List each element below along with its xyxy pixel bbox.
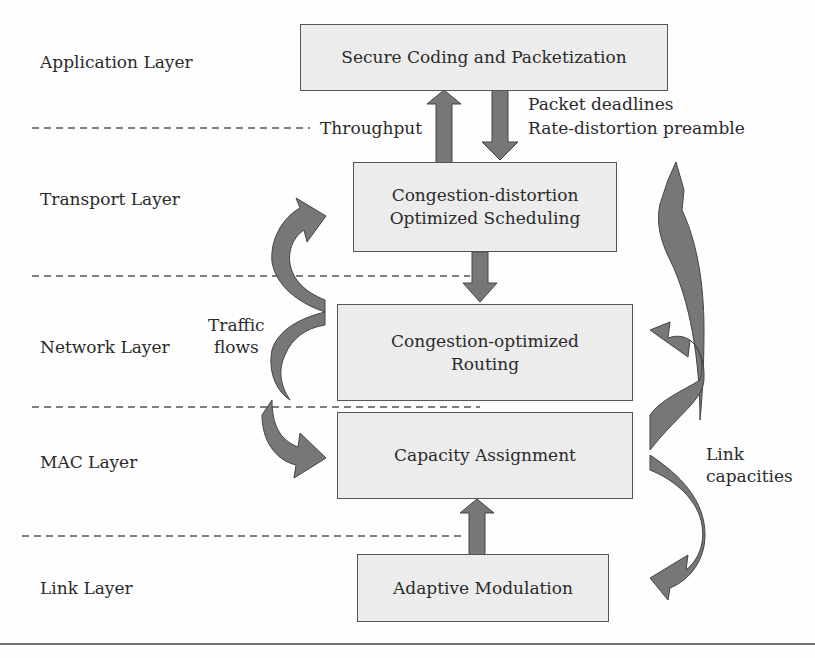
layer-label-application: Application Layer <box>40 52 193 72</box>
box-secure-coding: Secure Coding and Packetization <box>300 24 668 91</box>
traffic-flows-line2: flows <box>208 336 265 358</box>
schedule-to-routing-arrow-icon <box>463 252 497 302</box>
traffic-flow-up-arrow-icon <box>272 198 326 312</box>
box-congestion-routing: Congestion-optimized Routing <box>337 304 633 401</box>
packet-deadlines-label: Packet deadlines <box>528 93 674 115</box>
box-capacity-assignment: Capacity Assignment <box>337 412 633 499</box>
cross-layer-diagram: Application Layer Transport Layer Networ… <box>0 0 815 658</box>
traffic-flows-line1: Traffic <box>208 314 265 336</box>
traffic-flow-down-arrow-icon <box>262 400 326 478</box>
link-capacity-down-arrow-icon <box>650 455 705 600</box>
rd-preamble-label: Rate-distortion preamble <box>528 117 745 139</box>
throughput-up-arrow-icon <box>427 90 461 165</box>
box-capacity-text: Capacity Assignment <box>394 444 576 467</box>
box-routing-line1: Congestion-optimized <box>391 330 579 353</box>
box-scheduling-line1: Congestion-distortion <box>392 184 579 207</box>
box-secure-coding-text: Secure Coding and Packetization <box>341 46 626 69</box>
modulation-up-arrow-icon <box>460 499 494 556</box>
link-capacities-line1: Link <box>706 443 793 465</box>
throughput-label: Throughput <box>320 117 422 139</box>
layer-label-transport: Transport Layer <box>40 189 180 209</box>
box-adaptive-modulation: Adaptive Modulation <box>357 554 609 622</box>
box-modulation-text: Adaptive Modulation <box>393 577 573 600</box>
box-scheduling-line2: Optimized Scheduling <box>390 207 581 230</box>
box-routing-line2: Routing <box>451 353 519 376</box>
layer-label-mac: MAC Layer <box>40 452 137 472</box>
link-capacities-label: Link capacities <box>706 443 793 487</box>
deadlines-down-arrow-icon <box>482 90 518 160</box>
layer-label-network: Network Layer <box>40 337 170 357</box>
box-congestion-scheduling: Congestion-distortion Optimized Scheduli… <box>353 162 617 252</box>
link-capacities-line2: capacities <box>706 465 793 487</box>
layer-label-link: Link Layer <box>40 578 133 598</box>
traffic-flow-mid-arrow-icon <box>271 312 325 400</box>
traffic-flows-label: Traffic flows <box>208 314 265 358</box>
